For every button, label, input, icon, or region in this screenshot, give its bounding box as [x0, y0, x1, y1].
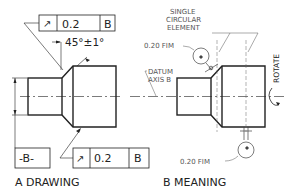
runout-icon-bottom: ↗ — [76, 153, 84, 164]
fcf-bottom-datum: B — [134, 152, 142, 165]
caption-drawing: A DRAWING — [15, 176, 80, 189]
right-meaning — [130, 33, 287, 161]
fcf-top-tolerance: 0.2 — [62, 18, 80, 31]
fim-top: 0.20 FIM — [144, 42, 174, 50]
label-single: SINGLE — [170, 8, 196, 16]
fcf-top-datum: B — [104, 18, 112, 31]
runout-icon-top: ↗ — [43, 18, 51, 29]
dial-indicator-top — [193, 48, 218, 72]
label-circular: CIRCULAR — [166, 16, 201, 24]
diameter-dimension — [12, 78, 27, 148]
angle-note: 45°±1° — [65, 36, 104, 48]
datum-label-line1: DATUM — [148, 68, 173, 76]
rotate-label: ROTATE — [272, 54, 281, 83]
label-element: ELEMENT — [167, 24, 200, 32]
datum-label-line2: AXIS B — [148, 76, 171, 84]
fcf-bottom-tolerance: 0.2 — [94, 152, 112, 165]
datum-feature-label: -B- — [19, 152, 34, 165]
fim-bottom: 0.20 FIM — [180, 158, 210, 166]
caption-meaning: B MEANING — [163, 176, 226, 189]
